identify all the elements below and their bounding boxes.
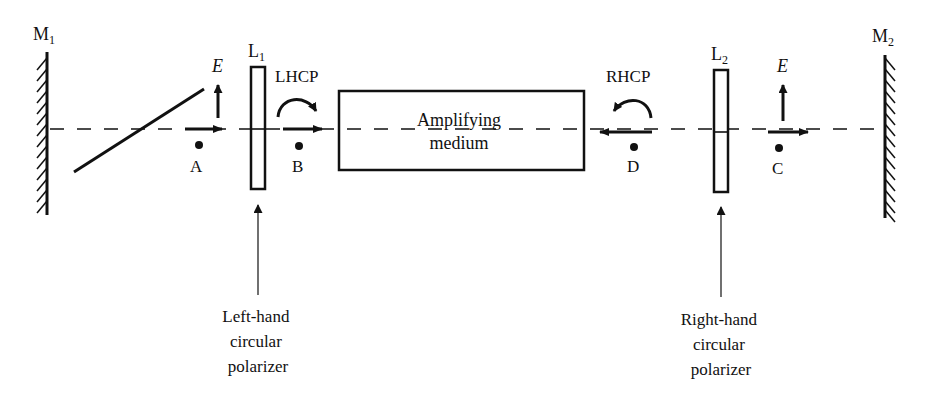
lhcp-rotation-icon — [278, 100, 316, 117]
point-a-label: A — [190, 157, 203, 176]
polarizer-l1-label: L1 — [248, 41, 265, 64]
lhcp-label: LHCP — [275, 67, 318, 86]
medium-label-line2: medium — [430, 133, 489, 153]
point-c-dot — [775, 144, 783, 152]
left-polarizer-caption: Left-hand circular polarizer — [222, 307, 293, 376]
point-b-dot — [295, 142, 303, 150]
e-field-label-c: E — [776, 56, 788, 76]
amplifying-medium: Amplifying medium — [339, 91, 584, 170]
e-field-arrow-a: E — [211, 56, 223, 118]
point-d-label: D — [627, 157, 639, 176]
point-a-dot — [195, 141, 203, 149]
point-d-dot — [630, 143, 638, 151]
polarizer-l1: L1 — [248, 41, 265, 189]
medium-label-line1: Amplifying — [417, 110, 501, 130]
rhcp-label: RHCP — [606, 67, 650, 86]
right-polarizer-caption: Right-hand circular polarizer — [681, 310, 762, 379]
mirror-m1-label: M1 — [33, 24, 55, 47]
point-c-label: C — [772, 159, 783, 178]
mirror-m2: M2 — [872, 26, 895, 222]
mirror-m2-label: M2 — [872, 26, 894, 49]
polarizer-l2-label: L2 — [711, 44, 728, 67]
brewster-plate — [74, 89, 204, 172]
e-field-label-a: E — [211, 56, 223, 76]
polarizer-l2: L2 — [711, 44, 728, 192]
point-b-label: B — [292, 157, 303, 176]
e-field-arrow-c: E — [776, 56, 788, 121]
rhcp-rotation-icon — [614, 100, 651, 118]
mirror-m1: M1 — [33, 24, 55, 215]
laser-cavity-diagram: M1 E A L1 Left-hand circular polarizer L… — [0, 0, 929, 400]
